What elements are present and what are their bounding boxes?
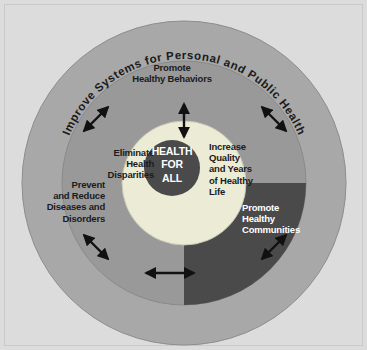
diagram-canvas: Improve Systems for Personal and Public …	[0, 0, 367, 350]
label-promote-healthy-communities: Promote Healthy Communities	[242, 202, 328, 236]
label-prevent-and-reduce-diseases: Prevent and Reduce Diseases and Disorder…	[23, 179, 105, 224]
core-circle-label: HEALTH FOR ALL	[141, 145, 203, 185]
label-promote-healthy-behaviors: Promote Healthy Behaviors	[113, 62, 231, 84]
label-increase-quality-and-years: Increase Quality and Years of Healthy Li…	[209, 141, 271, 197]
